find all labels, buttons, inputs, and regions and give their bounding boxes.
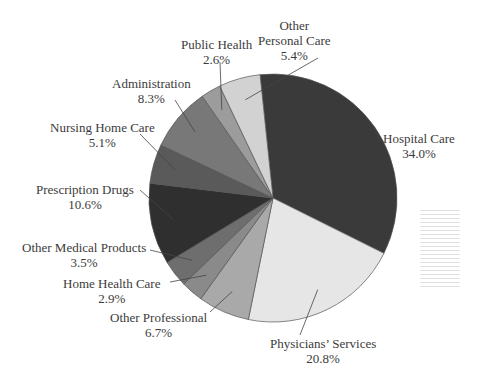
label-pct: 5.4% (258, 48, 331, 63)
label-other-professional: Other Professional 6.7% (110, 310, 207, 340)
label-hospital-care: Hospital Care 34.0% (383, 131, 455, 161)
label-name-line2: Personal Care (258, 33, 331, 48)
label-other-personal-care: Other Personal Care 5.4% (258, 18, 331, 63)
label-name: Public Health (181, 37, 252, 52)
scan-artifact (420, 210, 460, 290)
label-other-medical-products: Other Medical Products 3.5% (22, 240, 146, 270)
label-pct: 2.9% (63, 291, 160, 306)
label-pct: 2.6% (181, 52, 252, 67)
label-home-health-care: Home Health Care 2.9% (63, 276, 160, 306)
label-name: Nursing Home Care (50, 120, 155, 135)
label-pct: 6.7% (110, 325, 207, 340)
pie-slices (149, 74, 397, 322)
label-name: Other (258, 18, 331, 33)
label-name: Home Health Care (63, 276, 160, 291)
label-name: Physicians’ Services (270, 336, 376, 351)
label-name: Other Professional (110, 310, 207, 325)
label-public-health: Public Health 2.6% (181, 37, 252, 67)
label-nursing-home-care: Nursing Home Care 5.1% (50, 120, 155, 150)
label-name: Administration (112, 76, 191, 91)
label-pct: 8.3% (112, 91, 191, 106)
label-name: Other Medical Products (22, 240, 146, 255)
label-pct: 10.6% (36, 197, 134, 212)
label-pct: 5.1% (50, 135, 155, 150)
label-pct: 20.8% (270, 351, 376, 366)
label-administration: Administration 8.3% (112, 76, 191, 106)
label-prescription-drugs: Prescription Drugs 10.6% (36, 182, 134, 212)
label-name: Prescription Drugs (36, 182, 134, 197)
label-physicians-services: Physicians’ Services 20.8% (270, 336, 376, 366)
label-name: Hospital Care (383, 131, 455, 146)
label-pct: 34.0% (383, 146, 455, 161)
label-pct: 3.5% (22, 255, 146, 270)
